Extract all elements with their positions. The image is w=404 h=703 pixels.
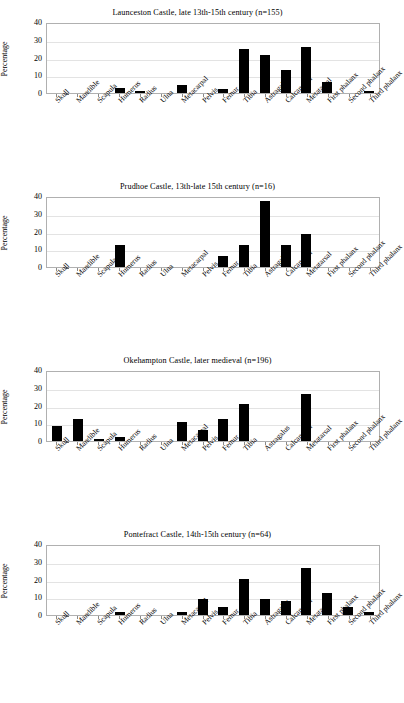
chart-title: Pontefract Castle, 14th-15th century (n=… — [0, 530, 395, 540]
x-axis-labels: SkullMandibleScapulaHumerusRadiusUlnaMet… — [46, 445, 380, 517]
cropped-caption-strip — [0, 696, 395, 703]
y-tick-label: 40 — [34, 541, 42, 549]
x-label-slot: Radius — [130, 271, 151, 343]
y-tick-label: 30 — [34, 559, 42, 567]
x-label-slot: Second phalanx — [338, 271, 359, 343]
x-label-slot: Pelvis — [192, 271, 213, 343]
x-label-slot: Second phalanx — [338, 97, 359, 169]
y-tick-label: 20 — [34, 229, 42, 237]
x-label-slot: Metacarpal — [171, 445, 192, 517]
x-label-slot: Mandible — [67, 445, 88, 517]
x-label-slot: Ulna — [150, 271, 171, 343]
y-tick-label: 20 — [34, 403, 42, 411]
chart-title: Launceston Castle, late 13th-15th centur… — [0, 8, 395, 18]
x-label-slot: Mandible — [67, 97, 88, 169]
bar-slot — [47, 372, 68, 441]
x-axis-labels: SkullMandibleScapulaHumerusRadiusUlnaMet… — [46, 271, 380, 343]
bar-slot — [172, 198, 193, 267]
bar — [260, 55, 270, 93]
bar-slot — [213, 372, 234, 441]
y-axis-ticks: 010203040 — [22, 197, 44, 268]
bar — [239, 49, 249, 93]
x-axis-labels: SkullMandibleScapulaHumerusRadiusUlnaMet… — [46, 619, 380, 691]
y-axis-label: Percentage — [0, 372, 10, 442]
x-label-slot: Third phalanx — [359, 445, 380, 517]
chart-panel: Pontefract Castle, 14th-15th century (n=… — [0, 522, 395, 696]
x-label-slot: Metacarpal — [171, 271, 192, 343]
x-label-slot: Metacarpal — [171, 619, 192, 691]
y-axis-label: Percentage — [0, 24, 10, 94]
x-label-slot: Astragalus — [255, 619, 276, 691]
bar-slot — [47, 546, 68, 615]
bar-slot — [255, 198, 276, 267]
y-tick-label: 30 — [34, 385, 42, 393]
bar-slot — [151, 546, 172, 615]
x-label-slot: Mandible — [67, 271, 88, 343]
bar-slot — [234, 24, 255, 93]
x-label-slot: First phalanx — [317, 271, 338, 343]
x-label-slot: Pelvis — [192, 445, 213, 517]
x-label-slot: Astragalus — [255, 445, 276, 517]
bar-slot — [234, 198, 255, 267]
x-label-slot: Third phalanx — [359, 619, 380, 691]
x-label-slot: Ulna — [150, 97, 171, 169]
x-label-slot: Astragalus — [255, 97, 276, 169]
x-label-slot: Humerus — [109, 271, 130, 343]
x-label-slot: Calcaneum — [276, 619, 297, 691]
x-label-slot: Metatarsal — [297, 445, 318, 517]
x-label-slot: Radius — [130, 97, 151, 169]
bar — [177, 422, 187, 441]
x-label-slot: Skull — [46, 97, 67, 169]
bar — [239, 579, 249, 615]
bar-slot — [213, 24, 234, 93]
x-label-slot: Femur — [213, 271, 234, 343]
x-label-slot: Humerus — [109, 445, 130, 517]
x-label-slot: Metacarpal — [171, 97, 192, 169]
x-label-slot: Third phalanx — [359, 97, 380, 169]
y-axis-label: Percentage — [0, 198, 10, 268]
y-tick-label: 0 — [38, 264, 42, 272]
bar-slot — [151, 198, 172, 267]
y-tick-label: 0 — [38, 90, 42, 98]
x-label-slot: Humerus — [109, 97, 130, 169]
y-axis-ticks: 010203040 — [22, 23, 44, 94]
x-label-slot: Metatarsal — [297, 619, 318, 691]
x-label-slot: Scapula — [88, 619, 109, 691]
bar-slot — [47, 24, 68, 93]
x-label-slot: Pelvis — [192, 97, 213, 169]
x-label-slot: Calcaneum — [276, 271, 297, 343]
x-label-slot: Astragalus — [255, 271, 276, 343]
y-tick-label: 20 — [34, 55, 42, 63]
x-label-slot: Skull — [46, 619, 67, 691]
x-label-slot: Calcaneum — [276, 97, 297, 169]
bar-slot — [68, 198, 89, 267]
x-axis-labels: SkullMandibleScapulaHumerusRadiusUlnaMet… — [46, 97, 380, 169]
y-tick-label: 30 — [34, 37, 42, 45]
y-axis-ticks: 010203040 — [22, 371, 44, 442]
x-label-slot: First phalanx — [317, 97, 338, 169]
x-label-slot: First phalanx — [317, 619, 338, 691]
x-label-slot: Scapula — [88, 97, 109, 169]
bar-slot — [213, 546, 234, 615]
y-tick-label: 10 — [34, 594, 42, 602]
bar-slot — [47, 198, 68, 267]
x-label-slot: Tibia — [234, 271, 255, 343]
bar-slot — [234, 546, 255, 615]
bar-slot — [255, 24, 276, 93]
x-label-slot: Scapula — [88, 445, 109, 517]
chart-title: Prudhoe Castle, 13th-late 15th century (… — [0, 182, 395, 192]
y-tick-label: 10 — [34, 420, 42, 428]
x-label-slot: Metatarsal — [297, 271, 318, 343]
y-tick-label: 20 — [34, 577, 42, 585]
bar — [260, 201, 270, 267]
bar-slot — [68, 24, 89, 93]
bar-slot — [68, 546, 89, 615]
x-label-slot: First phalanx — [317, 445, 338, 517]
y-tick-label: 0 — [38, 612, 42, 620]
bar-slot — [68, 372, 89, 441]
y-tick-label: 10 — [34, 72, 42, 80]
x-label-slot: Skull — [46, 271, 67, 343]
x-label-slot: Second phalanx — [338, 445, 359, 517]
x-label-slot: Metatarsal — [297, 97, 318, 169]
